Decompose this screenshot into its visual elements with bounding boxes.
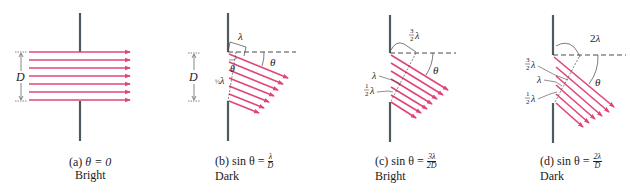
caption-result: Bright [375,170,437,183]
angle-arc [262,52,264,66]
caption-d: (d) sin θ = 2λD Dark [540,153,602,183]
light-rays [229,54,288,113]
caption-formula: sin θ = [391,155,424,168]
path-difference-bracket [556,43,580,57]
caption-result: Dark [540,170,602,183]
svg-text:3: 3 [526,56,530,64]
caption-formula: sin θ = [557,155,590,168]
path-difference-bracket [391,43,416,52]
angle-theta-label: θ [595,76,601,88]
svg-text:1: 1 [365,82,369,90]
svg-text:2: 2 [526,98,530,106]
panel-c: 3 2 λ λ 1 2 λ θ [364,15,456,142]
caption-a: (a) θ = 0 Bright [69,156,111,182]
svg-text:1: 1 [526,90,530,98]
svg-text:2: 2 [365,90,369,98]
caption-c: (c) sin θ = 3λ2D Bright [375,153,437,183]
path-diff-lambda-label: λ [237,30,243,42]
caption-label: (b) [215,155,229,168]
angle-theta-label: θ [270,56,276,68]
svg-text:2: 2 [410,35,414,43]
lambda-label: λ [371,70,377,81]
caption-fraction: 3λ2D [427,153,437,170]
angle-arc [426,53,433,75]
caption-fraction: λD [268,153,274,170]
three-halves-lambda-label: λ [414,30,420,41]
caption-b: (b) sin θ = λD Dark [215,153,273,183]
three-halves-lambda-label: λ [530,59,536,70]
slit-width-label: D [188,70,198,84]
svg-text:2: 2 [526,64,530,72]
lambda-label: λ [536,74,542,85]
caption-formula: sin θ = [232,155,265,168]
half-lambda-label: λ [530,93,536,104]
caption-result: Dark [215,170,273,183]
caption-label: (c) [375,155,388,168]
fraction-3-2-label: 3 [410,27,414,35]
inner-theta-label: θ [230,63,235,74]
angle-arc-inner [229,58,237,60]
caption-fraction: 2λD [593,153,602,170]
panel-d: 2λ 3 2 λ λ 1 2 λ θ [525,15,626,143]
caption-result: Bright [69,169,111,182]
panel-a: D [15,13,130,141]
light-rays [391,55,448,118]
half-lambda-label: λ [369,85,375,96]
panel-b: λ θ θ ½ λ D [188,13,296,141]
two-lambda-label: 2λ [590,32,601,44]
light-rays [29,52,130,100]
light-rays [554,57,614,127]
half-lambda-label: λ [219,75,225,86]
angle-theta-label: θ [433,64,439,76]
slit-width-label: D [15,70,25,84]
caption-label: (d) [540,155,554,168]
